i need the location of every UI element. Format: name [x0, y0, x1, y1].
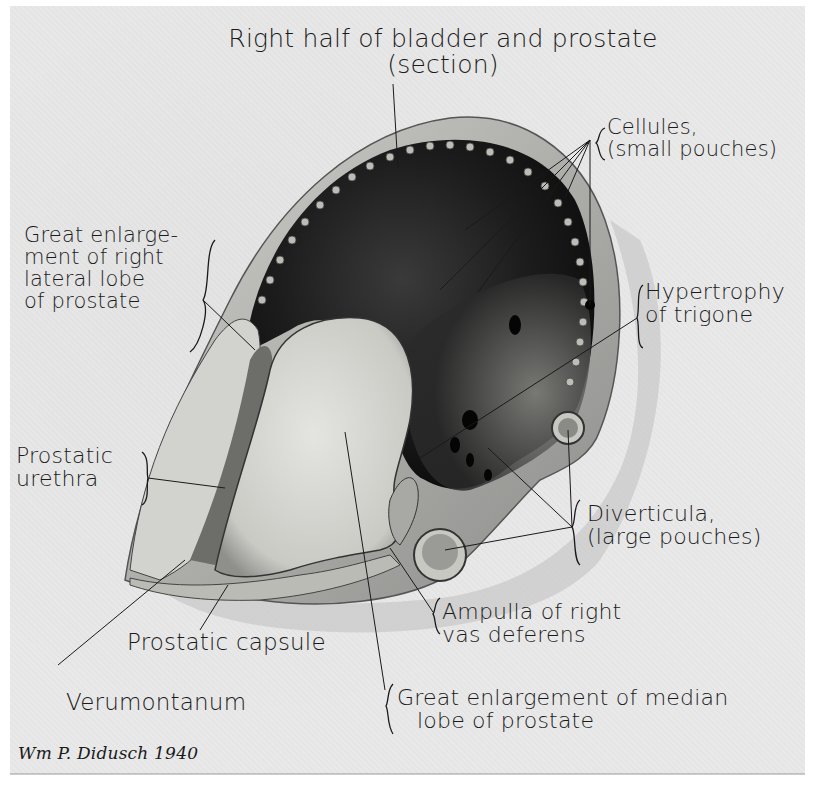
artist-signature: Wm P. Didusch 1940 — [18, 745, 198, 763]
label-ampulla: Ampulla of right vas deferens — [442, 600, 621, 646]
label-lateral-lobe: Great enlarge- ment of right lateral lob… — [24, 224, 178, 312]
median-lobe-line-2: lobe of prostate — [397, 709, 728, 732]
diverticula-line-2: (large pouches) — [587, 525, 762, 548]
median-lobe-line-1: Great enlargement of median — [397, 686, 728, 709]
lateral-lobe-line-1: Great enlarge- — [24, 224, 178, 246]
lateral-lobe-line-4: of prostate — [24, 290, 178, 312]
urethra-line-1: Prostatic — [16, 444, 113, 467]
capsule-line-1: Prostatic capsule — [127, 630, 326, 654]
urethra-line-2: urethra — [16, 467, 113, 490]
title-line-2: (section) — [203, 52, 683, 78]
signature-text: Wm P. Didusch 1940 — [18, 745, 198, 763]
label-trigone: Hypertrophy of trigone — [645, 280, 785, 326]
trigone-line-1: Hypertrophy — [645, 280, 785, 303]
label-diverticula: Diverticula, (large pouches) — [587, 502, 762, 548]
cellules-line-2: (small pouches) — [607, 138, 777, 160]
cellules-line-1: Cellules, — [607, 116, 777, 138]
label-median-lobe: Great enlargement of median lobe of pros… — [397, 686, 728, 732]
verumontanum-line-1: Verumontanum — [66, 690, 246, 714]
lateral-lobe-line-3: lateral lobe — [24, 268, 178, 290]
label-verumontanum: Verumontanum — [66, 690, 246, 714]
title-line-1: Right half of bladder and prostate — [203, 26, 683, 52]
trigone-line-2: of trigone — [645, 303, 785, 326]
label-cellules: Cellules, (small pouches) — [607, 116, 777, 160]
label-title: Right half of bladder and prostate (sect… — [203, 26, 683, 79]
ampulla-line-1: Ampulla of right — [442, 600, 621, 623]
ampulla-line-2: vas deferens — [442, 623, 621, 646]
diverticula-line-1: Diverticula, — [587, 502, 762, 525]
label-capsule: Prostatic capsule — [127, 630, 326, 654]
label-urethra: Prostatic urethra — [16, 444, 113, 490]
lateral-lobe-line-2: ment of right — [24, 246, 178, 268]
